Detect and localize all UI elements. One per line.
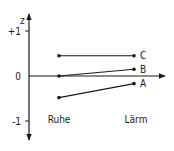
y-tick-label: -1 [12, 116, 21, 127]
x-category-label: Lärm [125, 114, 148, 125]
series-line [59, 84, 134, 98]
series-label: A [140, 78, 147, 89]
series-C: C [57, 50, 146, 61]
chart: z +10-1 CBA RuheLärm [0, 0, 174, 151]
series-label: C [140, 50, 146, 61]
data-point [57, 74, 61, 78]
y-tick-label: 0 [15, 71, 21, 82]
data-point [57, 96, 61, 100]
data-point [132, 82, 136, 86]
data-point [132, 67, 136, 71]
series-label: B [140, 64, 146, 75]
y-axis-label: z [20, 15, 25, 26]
data-point [132, 54, 136, 58]
series-line [59, 69, 134, 76]
y-tick-label: +1 [8, 26, 21, 37]
x-category-label: Ruhe [48, 114, 71, 125]
data-point [57, 54, 61, 58]
series-A: A [57, 78, 147, 99]
